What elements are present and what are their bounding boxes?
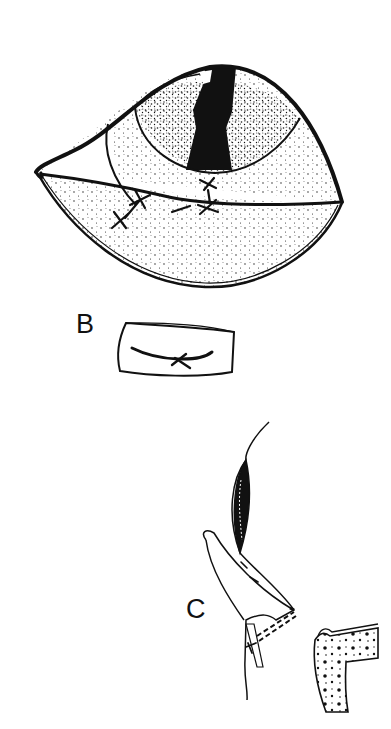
surgical-illustration: B C <box>0 0 391 729</box>
panel-a-eye <box>36 66 342 287</box>
panel-label-b: B <box>76 311 94 338</box>
panel-b-graft <box>118 323 234 376</box>
panel-c-section <box>204 422 378 712</box>
panel-label-c: C <box>186 596 206 623</box>
